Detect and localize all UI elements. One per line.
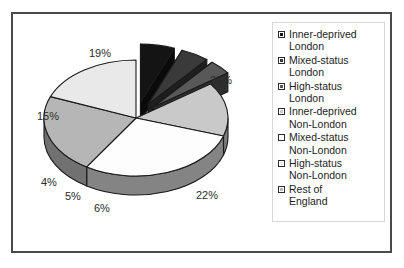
legend-swatch-icon <box>278 83 285 90</box>
legend-label-line1: Rest of <box>289 183 322 195</box>
pie-chart-graphic <box>18 40 268 215</box>
legend-label-line2: Non-London <box>289 144 349 156</box>
legend-swatch-icon <box>278 108 285 115</box>
slice-label-4: 4% <box>41 176 57 188</box>
legend-label-line2: London <box>289 66 349 78</box>
legend-item[interactable]: Inner-deprivedLondon <box>278 28 381 53</box>
legend-item-label: High-statusNon-London <box>289 157 347 182</box>
legend-item-label: High-statusLondon <box>289 80 342 105</box>
legend-item[interactable]: Mixed-statusLondon <box>278 54 381 79</box>
legend-label-line2: Non-London <box>289 118 357 130</box>
slice-label-29: 29% <box>210 74 232 86</box>
legend-label-line1: Mixed-status <box>289 54 349 66</box>
legend-label-line1: High-status <box>289 157 342 169</box>
legend-label-line1: Inner-deprived <box>289 28 357 40</box>
legend-item-label: Inner-deprivedLondon <box>289 28 357 53</box>
legend-item-label: Rest ofEngland <box>289 183 328 208</box>
legend-item[interactable]: Inner-deprivedNon-London <box>278 105 381 130</box>
legend-label-line2: London <box>289 40 357 52</box>
legend-item[interactable]: High-statusLondon <box>278 80 381 105</box>
slice-label-19: 19% <box>89 47 111 59</box>
legend-swatch-icon <box>278 134 285 141</box>
legend-label-line1: Inner-deprived <box>289 105 357 117</box>
slice-label-6: 6% <box>94 202 110 214</box>
chart-container: 29% 22% 6% 5% 4% 15% 19% Inner-deprivedL… <box>0 0 404 268</box>
legend-label-line1: Mixed-status <box>289 131 349 143</box>
slice-label-15: 15% <box>37 110 59 122</box>
legend-item[interactable]: Rest ofEngland <box>278 183 381 208</box>
legend-item[interactable]: High-statusNon-London <box>278 157 381 182</box>
legend-label-line2: Non-London <box>289 169 347 181</box>
legend-label-line2: England <box>289 195 328 207</box>
legend: Inner-deprivedLondonMixed-statusLondonHi… <box>272 22 385 222</box>
legend-swatch-icon <box>278 186 285 193</box>
legend-item[interactable]: Mixed-statusNon-London <box>278 131 381 156</box>
slice-label-5: 5% <box>65 190 81 202</box>
legend-item-label: Mixed-statusNon-London <box>289 131 349 156</box>
legend-swatch-icon <box>278 160 285 167</box>
legend-item-label: Inner-deprivedNon-London <box>289 105 357 130</box>
legend-swatch-icon <box>278 31 285 38</box>
legend-swatch-icon <box>278 57 285 64</box>
legend-label-line2: London <box>289 92 342 104</box>
legend-label-line1: High-status <box>289 80 342 92</box>
legend-item-label: Mixed-statusLondon <box>289 54 349 79</box>
slice-label-22: 22% <box>196 189 218 201</box>
